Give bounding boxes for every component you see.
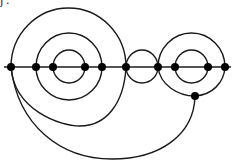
graph-edges — [11, 8, 225, 159]
vertex-v3 — [49, 63, 57, 71]
edge-lower-v6-v7 — [126, 67, 158, 83]
vertex-v10 — [221, 63, 229, 71]
edge-upper-v8-v9 — [175, 50, 208, 67]
edge-upper-v1-v6 — [11, 8, 126, 67]
vertex-v4 — [81, 63, 89, 71]
vertex-v9 — [204, 63, 212, 71]
vertex-v2 — [32, 63, 40, 71]
graph-diagram — [0, 0, 232, 161]
edge-upper-v6-v7 — [126, 50, 158, 67]
edge-upper-v3-v4 — [53, 50, 85, 67]
vertex-v11 — [191, 92, 199, 100]
edge-lower-v8-v9 — [175, 67, 208, 83]
edge-lower-v7-v11 — [158, 67, 195, 96]
graph-vertices — [7, 63, 229, 100]
vertex-v1 — [7, 63, 15, 71]
vertex-v5 — [98, 63, 106, 71]
vertex-v7 — [154, 63, 162, 71]
vertex-v6 — [122, 63, 130, 71]
vertex-v8 — [171, 63, 179, 71]
edge-lower-v3-v4 — [53, 67, 85, 83]
